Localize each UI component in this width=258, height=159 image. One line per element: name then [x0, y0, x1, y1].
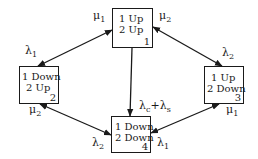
- state-3-number: 3: [235, 92, 241, 103]
- state-2-line2: 2 Up: [26, 82, 50, 93]
- label-mu1-top: μ1: [93, 9, 105, 24]
- edge-1-2: [38, 30, 112, 66]
- edge-1-4: [130, 48, 132, 116]
- label-lambda2-bottom: λ2: [92, 136, 104, 151]
- label-lambda2-right: λ2: [222, 46, 234, 61]
- label-common-cause-rate: λc+λs: [139, 99, 171, 114]
- state-box-4: 1 Down 2 Down 4: [111, 116, 151, 153]
- label-mu2-bottom-left: μ2: [29, 103, 41, 118]
- state-2-line1: 1 Down: [22, 71, 61, 82]
- state-3-line1: 1 Up: [211, 72, 235, 83]
- edge-2-4: [40, 104, 111, 135]
- state-1-line1: 1 Up: [119, 13, 143, 24]
- state-2-number: 2: [50, 92, 56, 103]
- state-box-3: 1 Up 2 Down 3: [204, 66, 244, 104]
- state-4-number: 4: [142, 141, 148, 152]
- label-lambda1-left: λ1: [25, 44, 37, 59]
- state-box-2: 1 Down 2 Up 2: [19, 66, 59, 104]
- state-1-number: 1: [144, 36, 150, 47]
- state-box-1: 1 Up 2 Up 1: [112, 8, 153, 48]
- label-mu2-top: μ2: [159, 9, 171, 24]
- label-lambda1-bottom: λ1: [157, 136, 169, 151]
- label-mu1-bottom-right: μ1: [226, 103, 238, 118]
- state-4-line1: 1 Down: [115, 121, 154, 132]
- state-1-line2: 2 Up: [119, 24, 143, 35]
- edge-1-3: [153, 27, 222, 66]
